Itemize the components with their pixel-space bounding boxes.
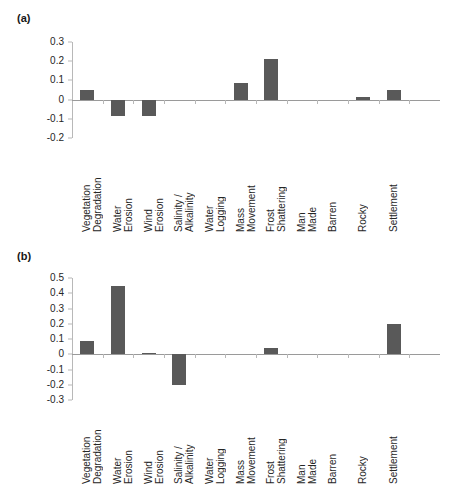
- x-axis-tick-mark: [164, 354, 165, 358]
- chart-panel-b: (b) 0.50.40.30.20.10-0.1-0.2-0.3Vegetati…: [0, 240, 456, 476]
- x-axis-tick-mark: [348, 354, 349, 358]
- y-axis-tick-label: -0.1: [0, 365, 64, 375]
- x-axis-category-label: Vegetation Degradation: [81, 404, 103, 484]
- x-axis-category-label: Wind Erosion: [143, 150, 165, 232]
- x-axis-tick-mark: [103, 100, 104, 104]
- x-axis-tick-mark: [256, 354, 257, 358]
- x-axis-tick-mark: [256, 100, 257, 104]
- y-axis-line: [72, 42, 73, 138]
- x-axis-tick-mark: [379, 354, 380, 358]
- bar-water-erosion: [111, 286, 125, 354]
- y-axis-tick-label: 0.3: [0, 37, 64, 47]
- x-axis-category-label: Frost Shattering: [265, 150, 287, 232]
- x-axis-category-label: Water Logging: [204, 404, 226, 484]
- y-axis-tick-label: 0: [0, 349, 64, 359]
- y-axis-tick-label: 0.3: [0, 304, 64, 314]
- y-axis-tick-label: -0.2: [0, 133, 64, 143]
- x-axis-tick-mark: [409, 354, 410, 358]
- x-axis-category-label: Rocky: [357, 404, 368, 484]
- x-axis-category-label: Salinity / Alkalinity: [173, 150, 195, 232]
- bar-rocky: [356, 97, 370, 100]
- y-axis-tick-label: -0.3: [0, 395, 64, 405]
- x-axis-category-label: Man Made: [296, 404, 318, 484]
- y-axis-line: [72, 278, 73, 400]
- x-axis-category-label: Water Erosion: [112, 404, 134, 484]
- y-axis-tick-label: 0.1: [0, 334, 64, 344]
- x-axis-tick-mark: [103, 354, 104, 358]
- bar-wind-erosion: [142, 100, 156, 116]
- x-axis-tick-mark: [195, 354, 196, 358]
- x-axis-category-label: Frost Shattering: [265, 404, 287, 484]
- y-axis-tick-label: 0: [0, 95, 64, 105]
- x-axis-category-label: Man Made: [296, 150, 318, 232]
- bar-mass-movement: [234, 83, 248, 99]
- bar-settlement: [387, 324, 401, 355]
- x-axis-tick-mark: [133, 100, 134, 104]
- x-axis-category-label: Water Erosion: [112, 150, 134, 232]
- y-axis-tick-label: -0.2: [0, 380, 64, 390]
- x-axis-category-label: Settlement: [388, 404, 399, 484]
- x-axis-tick-mark: [164, 100, 165, 104]
- x-axis-category-label: Water Logging: [204, 150, 226, 232]
- x-axis-tick-mark: [287, 100, 288, 104]
- y-axis-tick-label: 0.2: [0, 56, 64, 66]
- x-axis-category-label: Wind Erosion: [143, 404, 165, 484]
- bar-vegetation-degradation: [80, 341, 94, 355]
- bar-salinity-alkalinity: [172, 354, 186, 385]
- x-axis-tick-mark: [317, 354, 318, 358]
- bar-settlement: [387, 90, 401, 100]
- x-axis-category-label: Rocky: [357, 150, 368, 232]
- y-axis-tick-label: -0.1: [0, 114, 64, 124]
- x-axis-tick-mark: [133, 354, 134, 358]
- y-axis-tick-label: 0.4: [0, 288, 64, 298]
- x-axis-category-label: Mass Movement: [235, 404, 257, 484]
- x-axis-category-label: Salinity / Alkalinity: [173, 404, 195, 484]
- bar-vegetation-degradation: [80, 90, 94, 100]
- y-axis-tick-label: 0.1: [0, 75, 64, 85]
- panel-label-a: (a): [17, 12, 30, 24]
- x-axis-tick-mark: [225, 354, 226, 358]
- bar-water-erosion: [111, 100, 125, 116]
- x-axis-tick-mark: [287, 354, 288, 358]
- panel-label-b: (b): [17, 250, 31, 262]
- x-axis-category-label: Vegetation Degradation: [81, 150, 103, 232]
- x-axis-tick-mark: [409, 100, 410, 104]
- y-axis-tick-label: 0.5: [0, 273, 64, 283]
- y-axis-tick-label: 0.2: [0, 319, 64, 329]
- x-axis-category-label: Barren: [327, 404, 338, 484]
- x-axis-tick-mark: [348, 100, 349, 104]
- x-axis-tick-mark: [317, 100, 318, 104]
- bar-frost-shattering: [264, 348, 278, 354]
- bar-frost-shattering: [264, 59, 278, 99]
- x-axis-tick-mark: [195, 100, 196, 104]
- x-axis-category-label: Barren: [327, 150, 338, 232]
- x-axis-tick-mark: [379, 100, 380, 104]
- x-axis-category-label: Mass Movement: [235, 150, 257, 232]
- chart-panel-a: (a) 0.30.20.10-0.1-0.2Vegetation Degrada…: [0, 0, 456, 240]
- x-axis-tick-mark: [225, 100, 226, 104]
- x-axis-category-label: Settlement: [388, 150, 399, 232]
- bar-wind-erosion: [142, 353, 156, 355]
